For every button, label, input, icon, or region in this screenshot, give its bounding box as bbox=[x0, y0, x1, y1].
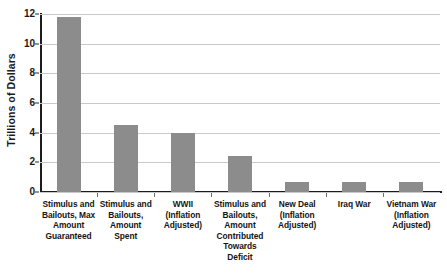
x-axis-category-label-line: Amount bbox=[212, 220, 267, 231]
x-axis-category-label-line: Vietnam War bbox=[384, 199, 439, 210]
bar bbox=[171, 133, 195, 192]
x-axis-category-label-line: Amount bbox=[98, 220, 153, 231]
x-axis-category-label-line: New Deal bbox=[270, 199, 325, 210]
x-axis-category-label-line: Adjusted) bbox=[384, 220, 439, 231]
x-axis-category-label: Vietnam War(InflationAdjusted) bbox=[383, 199, 440, 271]
x-axis-category-label: Stimulus andBailouts,AmountSpent bbox=[97, 199, 154, 271]
x-axis-category-label-line: Stimulus and bbox=[98, 199, 153, 210]
y-axis-tick-mark bbox=[35, 43, 39, 44]
x-axis-category-label-line: Stimulus and bbox=[41, 199, 96, 210]
x-axis-category-label-line: Amount bbox=[41, 220, 96, 231]
bar-series bbox=[40, 14, 440, 192]
bar-slot bbox=[269, 14, 326, 192]
y-axis-tick-mark bbox=[35, 192, 39, 193]
x-axis-category-label-line: Towards Deficit bbox=[212, 241, 267, 262]
x-axis-category-label: Stimulus andBailouts, MaxAmountGuarantee… bbox=[40, 199, 97, 271]
bar-slot bbox=[97, 14, 154, 192]
x-axis-category-label-line: Contributed bbox=[212, 231, 267, 242]
bar bbox=[114, 125, 138, 192]
x-axis-tick-mark bbox=[269, 193, 270, 197]
bar-slot bbox=[40, 14, 97, 192]
bar-slot bbox=[326, 14, 383, 192]
x-axis-category-label: WWII(InflationAdjusted) bbox=[154, 199, 211, 271]
x-axis-category-label: New Deal(InflationAdjusted) bbox=[269, 199, 326, 271]
y-axis-tick-mark bbox=[35, 103, 39, 104]
y-axis-tick-mark bbox=[35, 14, 39, 15]
x-axis-category-label-line: (Inflation bbox=[270, 210, 325, 221]
y-axis-tick-labels: 024681012 bbox=[20, 0, 38, 200]
y-axis-tick-label: 12 bbox=[24, 9, 35, 19]
x-axis-category-label-line: Spent bbox=[98, 231, 153, 242]
x-axis-category-label-line: WWII bbox=[155, 199, 210, 210]
x-axis-category-label-line: Bailouts, Max bbox=[41, 210, 96, 221]
y-axis-tick-mark bbox=[35, 162, 39, 163]
x-axis-tick-mark bbox=[326, 193, 327, 197]
x-axis-category-label-line: Adjusted) bbox=[270, 220, 325, 231]
bar-slot bbox=[211, 14, 268, 192]
y-axis-title-label: Trillions of Dollars bbox=[5, 53, 17, 147]
bar-slot bbox=[383, 14, 440, 192]
bar bbox=[342, 182, 366, 192]
x-axis-category-label-line: Iraq War bbox=[327, 199, 382, 210]
bar bbox=[228, 156, 252, 192]
plot-area bbox=[40, 14, 440, 192]
x-axis-category-labels: Stimulus andBailouts, MaxAmountGuarantee… bbox=[40, 199, 440, 271]
x-axis-category-label-line: Adjusted) bbox=[155, 220, 210, 231]
x-axis-category-label-line: Bailouts, bbox=[98, 210, 153, 221]
x-axis-tick-mark bbox=[97, 193, 98, 197]
x-axis-tick-mark bbox=[383, 193, 384, 197]
bar-chart: Trillions of Dollars 024681012 Stimulus … bbox=[0, 0, 447, 274]
x-axis-category-label-line: Guaranteed bbox=[41, 231, 96, 242]
x-axis-category-label: Stimulus andBailouts,AmountContributedTo… bbox=[211, 199, 268, 271]
y-axis-tick-label: 10 bbox=[24, 39, 35, 49]
bar bbox=[285, 182, 309, 192]
bar bbox=[57, 17, 81, 192]
y-axis-title: Trillions of Dollars bbox=[0, 0, 22, 200]
bar bbox=[399, 182, 423, 192]
bar-slot bbox=[154, 14, 211, 192]
x-axis-tick-mark bbox=[211, 193, 212, 197]
y-axis-tick-mark bbox=[35, 132, 39, 133]
x-axis-ticks bbox=[40, 193, 440, 198]
x-axis-category-label-line: (Inflation bbox=[384, 210, 439, 221]
x-axis-category-label-line: Bailouts, bbox=[212, 210, 267, 221]
x-axis-category-label-line: (Inflation bbox=[155, 210, 210, 221]
x-axis-category-label: Iraq War bbox=[326, 199, 383, 271]
x-axis-category-label-line: Stimulus and bbox=[212, 199, 267, 210]
y-axis-tick-mark bbox=[35, 73, 39, 74]
x-axis-tick-mark bbox=[154, 193, 155, 197]
